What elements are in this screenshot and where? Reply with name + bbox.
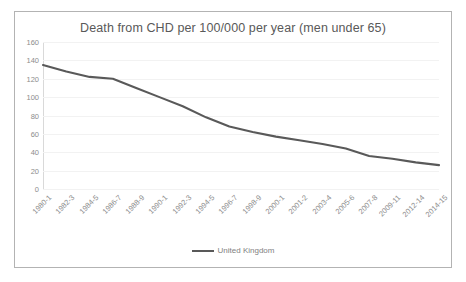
- x-axis-tick-label: 1998-9: [240, 193, 263, 216]
- x-axis-tick-label: 2003-4: [310, 193, 333, 216]
- y-axis-tick-label: 120: [26, 74, 39, 83]
- x-axis-tick-label: 1982-3: [54, 193, 77, 216]
- x-axis-tick-label: 2009-11: [377, 193, 402, 218]
- x-axis-tick-label: 2014-15: [424, 193, 450, 219]
- x-axis-tick-label: 2000-1: [263, 193, 286, 216]
- chart-title: Death from CHD per 100/000 per year (men…: [15, 21, 451, 35]
- y-axis-tick-label: 100: [26, 93, 39, 102]
- y-axis-tick-label: 20: [31, 166, 39, 175]
- y-axis-tick-label: 80: [31, 111, 39, 120]
- y-axis-tick-label: 40: [31, 148, 39, 157]
- x-axis-tick-label: 1988-9: [124, 193, 147, 216]
- legend-line-swatch-icon: [192, 250, 214, 252]
- x-axis-tick-label: 1990-1: [147, 193, 170, 216]
- x-axis-tick-label: 1986-7: [100, 193, 123, 216]
- x-axis-tick-label: 2005-6: [333, 193, 356, 216]
- x-axis-tick-label: 1994-5: [194, 193, 217, 216]
- x-axis-tick-label: 2001-2: [287, 193, 310, 216]
- x-axis-tick-label: 2012-14: [400, 193, 426, 219]
- gridline: [43, 189, 439, 190]
- y-axis-tick-label: 140: [26, 56, 39, 65]
- x-axis-tick-label: 1996-7: [217, 193, 240, 216]
- plot-area: 160140120100806040200 1980-11982-31984-5…: [43, 42, 439, 189]
- series-line-united-kingdom: [43, 42, 439, 189]
- x-axis-tick-label: 1992-3: [170, 193, 193, 216]
- chart-legend: United Kingdom: [15, 246, 451, 255]
- y-axis-tick-label: 0: [35, 185, 39, 194]
- x-axis-tick-label: 2007-8: [357, 193, 380, 216]
- x-axis-tick-label: 1984-5: [77, 193, 100, 216]
- legend-label-united-kingdom: United Kingdom: [218, 246, 275, 255]
- chart-frame: Death from CHD per 100/000 per year (men…: [14, 11, 452, 268]
- y-axis-tick-label: 160: [26, 38, 39, 47]
- x-axis-tick-label: 1980-1: [30, 193, 53, 216]
- y-axis-tick-label: 60: [31, 129, 39, 138]
